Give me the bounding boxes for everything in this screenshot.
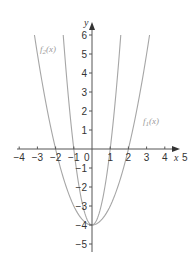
x-tick-label: 5: [182, 152, 188, 163]
f2-label: f2(x): [40, 44, 56, 56]
x-axis-name: x: [173, 152, 179, 163]
y-axis-arrow-icon: [89, 22, 95, 30]
x-tick-label: 2: [126, 152, 132, 163]
y-tick-label: −5: [76, 239, 88, 250]
f1-label: f1(x): [143, 116, 159, 128]
x-tick-label: −1: [68, 152, 80, 163]
y-tick-label: −2: [76, 182, 88, 193]
y-axis-name: y: [83, 17, 89, 28]
x-tick-label: 3: [144, 152, 150, 163]
x-tick-label: 1: [107, 152, 113, 163]
y-tick-label: 4: [81, 68, 87, 79]
y-tick-label: 1: [81, 125, 87, 136]
ticks: −4−3−2−112345654321−1−2−3−4−5: [13, 30, 188, 250]
x-tick-label: −4: [13, 152, 25, 163]
origin-label: 0: [84, 152, 90, 163]
y-tick-label: −4: [76, 220, 88, 231]
chart: −4−3−2−112345654321−1−2−3−4−5 x y 0 f2(x…: [0, 0, 195, 257]
y-tick-label: 2: [81, 106, 87, 117]
axes: [17, 22, 180, 252]
y-tick-label: 5: [81, 49, 87, 60]
y-tick-label: 3: [81, 87, 87, 98]
x-tick-label: −2: [50, 152, 62, 163]
x-tick-label: 4: [162, 152, 168, 163]
y-tick-label: −1: [76, 163, 88, 174]
y-tick-label: −3: [76, 201, 88, 212]
y-tick-label: 6: [81, 30, 87, 41]
x-tick-label: −3: [32, 152, 44, 163]
